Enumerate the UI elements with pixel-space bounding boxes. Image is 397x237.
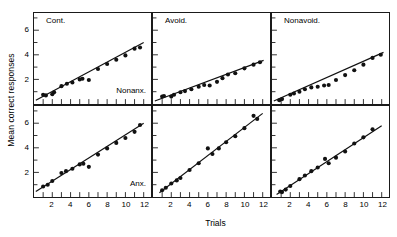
data-point — [361, 135, 365, 139]
x-tick-label: 8 — [339, 201, 351, 209]
data-point — [343, 149, 347, 153]
plot-panel-avoid-nonanx: Avoid. — [152, 12, 271, 105]
data-point — [59, 84, 63, 88]
x-axis-title: Trials — [0, 218, 397, 228]
panel-title-avoid-nonanx: Avoid. — [165, 16, 187, 25]
data-point — [327, 161, 331, 165]
data-point — [96, 67, 100, 71]
data-point — [138, 123, 142, 127]
data-point — [352, 141, 356, 145]
row-label-cont-nonanx: Nonanx. — [116, 86, 146, 95]
data-point — [70, 167, 74, 171]
x-tick-label: 10 — [239, 201, 251, 209]
x-ticks-nonavoid-anx — [281, 192, 382, 197]
data-point — [178, 176, 182, 180]
data-point — [52, 90, 56, 94]
figure-scatter-grid: Mean correct responses Trials Cont.Nonan… — [0, 0, 397, 237]
data-point — [169, 181, 173, 185]
data-point — [105, 146, 109, 150]
data-point — [316, 165, 320, 169]
data-point — [64, 169, 68, 173]
y-tick-label: 6 — [17, 26, 29, 34]
y-tick-label: 2 — [17, 169, 29, 177]
data-point — [138, 45, 142, 49]
data-point — [202, 83, 206, 87]
plot-area-avoid-anx — [153, 106, 270, 197]
data-point — [322, 83, 326, 87]
x-tick-label: 4 — [183, 201, 195, 209]
y-tick-label: 4 — [17, 144, 29, 152]
y-tick-label: 4 — [17, 51, 29, 59]
data-point — [65, 82, 69, 86]
panel-title-nonavoid-nonanx: Nonavoid. — [284, 16, 320, 25]
x-tick-label: 12 — [258, 201, 270, 209]
data-point — [323, 157, 327, 161]
data-point — [288, 184, 292, 188]
data-point — [160, 188, 164, 192]
data-point — [197, 85, 201, 89]
y-ticks-avoid-nonanx — [153, 18, 158, 92]
plot-panel-nonavoid-nonanx: Nonavoid. — [271, 12, 390, 105]
x-tick-label: 2 — [284, 201, 296, 209]
data-point — [114, 58, 118, 62]
data-point — [370, 56, 374, 60]
data-point — [292, 91, 296, 95]
data-point — [370, 127, 374, 131]
x-tick-label: 2 — [46, 201, 58, 209]
data-point — [242, 66, 246, 70]
data-point — [251, 63, 255, 67]
data-point — [197, 161, 201, 165]
plot-panel-avoid-anx — [152, 105, 271, 198]
data-point — [123, 136, 127, 140]
y-tick-label: 2 — [17, 76, 29, 84]
data-point — [132, 47, 136, 51]
data-point — [284, 188, 288, 192]
data-point — [258, 60, 262, 64]
data-point — [187, 168, 191, 172]
data-point — [334, 78, 338, 82]
data-point — [255, 117, 259, 121]
data-point — [297, 177, 301, 181]
data-point — [175, 178, 179, 182]
plot-panel-nonavoid-anx — [271, 105, 390, 198]
x-ticks-nonavoid-nonanx — [281, 99, 382, 104]
data-point — [59, 171, 63, 175]
x-tick-label: 12 — [139, 201, 151, 209]
data-point — [327, 83, 331, 87]
x-tick-label: 10 — [120, 201, 132, 209]
data-point — [87, 78, 91, 82]
data-point — [87, 165, 91, 169]
data-point — [233, 134, 237, 138]
data-point — [178, 90, 182, 94]
y-ticks-nonavoid-nonanx — [272, 18, 277, 92]
plot-panel-cont-anx: Anx. — [33, 105, 152, 198]
data-point — [96, 153, 100, 157]
data-point — [114, 141, 118, 145]
data-point — [164, 186, 168, 190]
data-point — [280, 97, 284, 101]
data-point — [78, 162, 82, 166]
x-ticks-cont-anx — [43, 192, 144, 197]
x-tick-label: 12 — [377, 201, 389, 209]
x-tick-label: 6 — [321, 201, 333, 209]
data-point — [46, 183, 50, 187]
data-point — [309, 169, 313, 173]
data-point — [105, 62, 109, 66]
data-point — [215, 80, 219, 84]
data-point — [233, 71, 237, 75]
y-ticks-cont-anx — [34, 111, 39, 185]
data-point — [41, 184, 45, 188]
x-tick-label: 10 — [358, 201, 370, 209]
data-point — [44, 93, 48, 97]
data-point — [226, 72, 230, 76]
data-point — [70, 80, 74, 84]
data-point — [251, 114, 255, 118]
data-point — [123, 53, 127, 57]
data-point — [379, 53, 383, 57]
x-ticks-cont-nonanx — [43, 99, 144, 104]
data-point — [361, 63, 365, 67]
plot-area-avoid-nonanx — [153, 13, 270, 104]
data-point — [316, 85, 320, 89]
data-point — [50, 179, 54, 183]
data-point — [81, 162, 85, 166]
